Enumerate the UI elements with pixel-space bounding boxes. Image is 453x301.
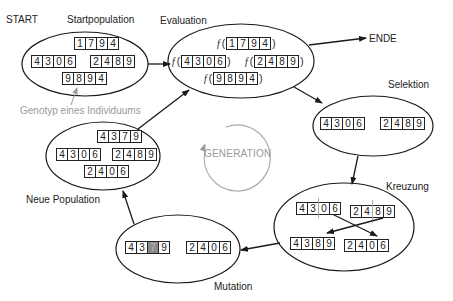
genotype-selektion-1: 4306 <box>320 117 365 130</box>
gene: 9 <box>158 241 170 254</box>
ende-label: ENDE <box>369 34 397 44</box>
gene: 9 <box>413 117 425 130</box>
gene: 9 <box>383 205 395 218</box>
arrow-neue-population-to-evaluation <box>138 90 189 129</box>
genotype-neue-2: 4306 <box>56 148 101 161</box>
gene: 6 <box>64 55 76 68</box>
genotype-child-1: 4389 <box>290 237 335 250</box>
gene: 9 <box>123 55 135 68</box>
arrow-kreuzung-to-mutation <box>241 243 280 250</box>
fitness-eval-2: f( 4306 ) <box>172 55 231 68</box>
paren: ( <box>177 56 180 67</box>
gene: 6 <box>117 165 129 178</box>
arrow-evaluation-to-selektion <box>294 87 322 103</box>
f-symbol: f <box>172 56 175 67</box>
arrow-evaluation-to-ende <box>309 38 366 45</box>
paren: ) <box>259 73 262 84</box>
genotype-hint-label: Genotyp eines Individuums <box>20 106 141 116</box>
genotype-neue-4: 2406 <box>84 165 129 178</box>
paren: ( <box>250 56 253 67</box>
gene: 4 <box>107 37 119 50</box>
paren: ( <box>209 73 212 84</box>
arrow-selektion-to-kreuzung <box>352 156 358 184</box>
paren: ) <box>227 56 230 67</box>
selektion-label: Selektion <box>388 80 429 90</box>
genotype-start-2: 4306 <box>31 55 76 68</box>
genotype-neue-3: 2489 <box>112 148 157 161</box>
gene: 9 <box>287 55 299 68</box>
kreuzung-label: Kreuzung <box>386 182 429 192</box>
f-symbol: f <box>217 38 220 49</box>
gene: 9 <box>323 237 335 250</box>
gene: 9 <box>130 130 142 143</box>
genotype-selektion-2: 2489 <box>380 117 425 130</box>
fitness-eval-4: f( 9894 ) <box>204 72 263 85</box>
gene: 6 <box>353 117 365 130</box>
mutation-label: Mutation <box>214 282 252 292</box>
crossover-arrow-2 <box>327 218 383 233</box>
startpopulation-label: Startpopulation <box>67 15 134 25</box>
genotype-hint-pointer <box>71 88 77 105</box>
kreuzung-ellipse <box>274 183 414 271</box>
f-symbol: f <box>204 73 207 84</box>
gene: 6 <box>214 55 226 68</box>
gene: 4 <box>259 37 271 50</box>
neue-population-label: Neue Population <box>26 195 100 205</box>
gene: 6 <box>219 241 231 254</box>
genotype-start-1: 1794 <box>74 37 119 50</box>
gene: 6 <box>377 239 389 252</box>
paren: ( <box>222 38 225 49</box>
genotype-start-4: 9894 <box>62 72 107 85</box>
gene: 9 <box>145 148 157 161</box>
gene: 4 <box>95 72 107 85</box>
crossover-cut-line-2 <box>372 200 373 220</box>
arrow-mutation-to-neue-population <box>123 191 134 224</box>
genotype-mutated: 4379 <box>125 241 170 254</box>
gene: 6 <box>89 148 101 161</box>
fitness-eval-3: f( 2489 ) <box>245 55 304 68</box>
crossover-cut-line-1 <box>318 198 319 218</box>
genotype-child-2: 2406 <box>344 239 389 252</box>
evaluation-label: Evaluation <box>160 16 207 26</box>
genotype-mutation-2: 2406 <box>186 241 231 254</box>
genotype-start-3: 2489 <box>90 55 135 68</box>
gene: 4 <box>246 72 258 85</box>
generation-label: GENERATION <box>204 148 271 159</box>
paren: ) <box>300 56 303 67</box>
start-label: START <box>6 15 38 25</box>
genotype-neue-1: 4379 <box>97 130 142 143</box>
f-symbol: f <box>245 56 248 67</box>
fitness-eval-1: f( 1794 ) <box>217 37 276 50</box>
gene: 6 <box>329 202 341 215</box>
paren: ) <box>272 38 275 49</box>
